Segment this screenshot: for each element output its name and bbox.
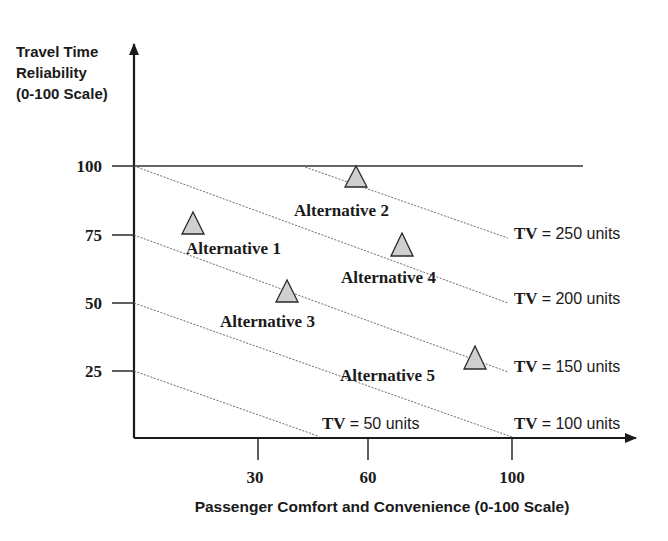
triangle-marker-alternative-2 [345, 166, 367, 187]
svg-text:Travel Time: Travel Time [16, 43, 98, 60]
svg-text:Reliability: Reliability [16, 64, 88, 81]
x-tick-label: 30 [247, 468, 264, 487]
tv-label-150: TV= 150 units [514, 357, 620, 376]
y-tick-label: 75 [85, 226, 102, 245]
iso-line-tv-50 [134, 371, 318, 436]
chart-canvas: Travel Time Reliability (0-100 Scale) 10… [0, 0, 668, 541]
y-tick-label: 100 [77, 157, 103, 176]
y-ticks: 100 75 50 25 [77, 157, 135, 381]
y-axis-label: Travel Time Reliability (0-100 Scale) [16, 43, 108, 102]
x-tick-label: 60 [360, 468, 377, 487]
triangle-marker-alternative-1 [182, 212, 204, 234]
label-alternative-3: Alternative 3 [220, 312, 315, 331]
label-alternative-5: Alternative 5 [340, 366, 435, 385]
tradeoff-chart: Travel Time Reliability (0-100 Scale) 10… [0, 0, 668, 541]
tv-label-200: TV= 200 units [514, 289, 620, 308]
x-tick-label: 100 [499, 468, 525, 487]
label-alternative-4: Alternative 4 [341, 268, 436, 287]
point-labels: Alternative 1 Alternative 2 Alternative … [186, 201, 436, 385]
triangle-marker-alternative-4 [391, 233, 413, 256]
label-alternative-1: Alternative 1 [186, 239, 281, 258]
tv-label-50: TV= 50 units [322, 414, 419, 433]
y-tick-label: 50 [85, 294, 102, 313]
tv-label-100: TV= 100 units [514, 414, 620, 433]
y-tick-label: 25 [85, 362, 102, 381]
tv-label-250: TV= 250 units [514, 224, 620, 243]
x-ticks: 30 60 100 [247, 438, 525, 487]
triangle-marker-alternative-3 [276, 280, 298, 302]
svg-text:(0-100 Scale): (0-100 Scale) [16, 85, 108, 102]
data-points [182, 166, 486, 369]
label-alternative-2: Alternative 2 [294, 201, 389, 220]
x-axis-label: Passenger Comfort and Convenience (0-100… [195, 498, 570, 515]
